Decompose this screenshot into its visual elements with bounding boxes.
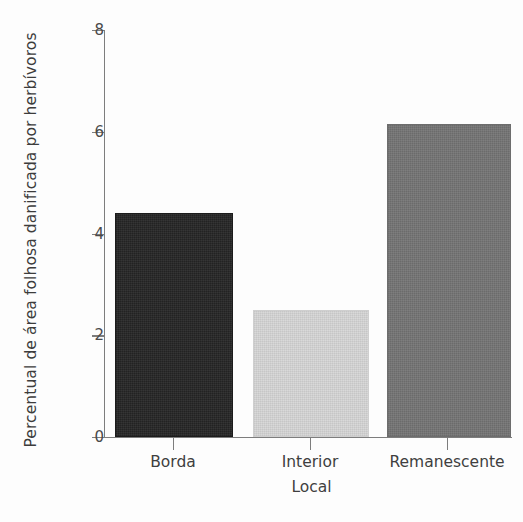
x-axis-label: Local (291, 478, 331, 496)
bar-texture (388, 125, 510, 436)
y-tick-label: 0 (78, 428, 104, 446)
bar-interior[interactable] (253, 310, 369, 438)
y-tick-label: 8 (78, 21, 104, 39)
y-axis-line (104, 30, 105, 438)
bar-texture (254, 311, 368, 437)
x-tick-label-borda: Borda (150, 453, 196, 471)
bar-chart-figure: Percentual de área folhosa danificada po… (0, 0, 523, 522)
y-tick-label: 2 (78, 326, 104, 344)
x-axis-label-wrap: Local (0, 478, 523, 496)
x-tick-mark-remanescente (447, 437, 448, 450)
x-tick-label-interior: Interior (282, 453, 339, 471)
bar-remanescente[interactable] (387, 124, 511, 437)
y-axis-label: Percentual de área folhosa danificada po… (14, 20, 48, 460)
x-tick-label-remanescente: Remanescente (389, 453, 504, 471)
bar-texture (116, 214, 232, 436)
bar-borda[interactable] (115, 213, 233, 437)
x-tick-mark-interior (310, 437, 311, 450)
y-tick-label: 4 (78, 225, 104, 243)
x-tick-mark-borda (173, 437, 174, 450)
y-tick-label: 6 (78, 123, 104, 141)
